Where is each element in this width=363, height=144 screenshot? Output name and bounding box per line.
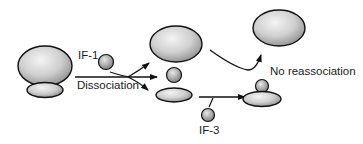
if3-bound [256, 80, 269, 93]
dissociation-label: Dissociation [77, 80, 139, 92]
small-subunit-70s [27, 83, 63, 98]
small-subunit-if3 [243, 92, 281, 107]
if3-entry-line [209, 98, 213, 107]
no-reassociation-label: No reassociation [270, 66, 356, 78]
large-subunit-70s [18, 46, 72, 86]
large-subunit-free [253, 10, 305, 46]
diagram-canvas: IF-1 Dissociation IF-3 No reassociation [0, 0, 363, 144]
large-subunit-mid [150, 26, 202, 62]
if1-label: IF-1 [78, 50, 98, 62]
branch-up-arrow [128, 63, 149, 77]
small-subunit-mid [156, 88, 192, 102]
if1-factor [99, 55, 114, 70]
if1-mid [167, 68, 182, 83]
if3-factor [202, 109, 215, 122]
if1-entry-line [110, 72, 130, 77]
ribosome-70s [18, 46, 72, 98]
if3-label: IF-3 [199, 125, 219, 137]
no-reassociation-arrow [210, 50, 261, 70]
